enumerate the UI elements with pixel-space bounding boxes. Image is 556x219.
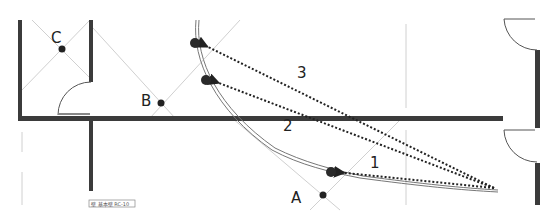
point-a-marker <box>320 192 327 199</box>
wall-tag-text: 壁 基本壁 RC-10 <box>91 201 129 208</box>
floor-plan-diagram: A B C 1 2 3 壁 基本壁 RC-10 <box>0 0 556 219</box>
point-b-marker <box>158 100 165 107</box>
walls <box>18 20 540 205</box>
walking-path <box>196 20 498 192</box>
arrow-3-label: 3 <box>297 64 307 82</box>
arrow-2 <box>211 80 494 188</box>
path-point-1 <box>326 167 336 177</box>
path-points <box>190 38 336 177</box>
point-b-label: B <box>141 92 151 110</box>
doors <box>58 19 537 162</box>
floor-plan-svg: A B C 1 2 3 壁 基本壁 RC-10 <box>0 0 556 219</box>
wall-tag: 壁 基本壁 RC-10 <box>89 200 135 208</box>
path-point-3 <box>190 38 200 48</box>
path-point-2 <box>201 75 211 85</box>
arrow-3 <box>200 43 494 188</box>
arrow-2-label: 2 <box>283 117 293 135</box>
point-a-label: A <box>291 189 302 207</box>
point-c-label: C <box>51 29 61 47</box>
arrow-1-label: 1 <box>370 154 380 172</box>
sight-arrows <box>200 43 494 188</box>
